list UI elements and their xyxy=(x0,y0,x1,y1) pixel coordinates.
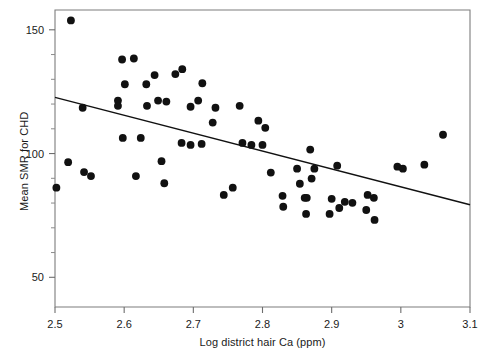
x-axis-label: Log district hair Ca (ppm) xyxy=(55,336,470,348)
data-point xyxy=(209,119,217,127)
data-point xyxy=(121,80,129,88)
data-point xyxy=(158,157,166,165)
x-tick-label: 2.8 xyxy=(255,318,270,330)
y-tick-label: 50 xyxy=(32,271,44,283)
data-point xyxy=(302,210,310,218)
data-point xyxy=(114,102,122,110)
y-axis-label: Mean SMR for CHD xyxy=(18,111,30,210)
data-point xyxy=(303,194,311,202)
data-point xyxy=(370,194,378,202)
regression-line xyxy=(55,97,470,204)
data-point xyxy=(296,180,304,188)
x-tick-label: 3.1 xyxy=(462,318,477,330)
data-point xyxy=(137,134,145,142)
data-point xyxy=(162,98,170,106)
data-point xyxy=(143,102,151,110)
data-point xyxy=(439,131,447,139)
data-point xyxy=(212,104,220,112)
axes-group xyxy=(55,10,470,307)
x-tick-label: 2.7 xyxy=(186,318,201,330)
data-point xyxy=(80,168,88,176)
data-point xyxy=(333,162,341,170)
data-point xyxy=(399,165,407,173)
data-point xyxy=(87,172,95,180)
data-point xyxy=(236,102,244,110)
data-point xyxy=(171,70,179,78)
y-tick-label: 150 xyxy=(26,24,44,36)
data-point xyxy=(151,71,159,79)
data-point xyxy=(52,184,60,192)
data-point xyxy=(132,172,140,180)
data-point xyxy=(279,192,287,200)
data-point xyxy=(118,56,126,64)
scatter-plot-figure: 501001502.52.62.72.82.933.1 Mean SMR for… xyxy=(0,0,489,359)
data-point xyxy=(349,199,357,207)
data-point xyxy=(178,139,186,147)
data-point xyxy=(267,169,275,177)
x-tick-label: 2.6 xyxy=(117,318,132,330)
data-point xyxy=(341,198,349,206)
data-point xyxy=(306,146,314,154)
data-point xyxy=(420,161,428,169)
plot-frame xyxy=(55,10,470,307)
ticks-group xyxy=(49,30,470,313)
data-point xyxy=(160,179,168,187)
data-point xyxy=(259,141,267,149)
data-point xyxy=(194,97,202,105)
data-point xyxy=(328,195,336,203)
data-point xyxy=(371,216,379,224)
data-point xyxy=(293,165,301,173)
data-point xyxy=(198,79,206,87)
data-point xyxy=(220,191,228,199)
data-point xyxy=(261,124,269,132)
data-point xyxy=(198,140,206,148)
data-point xyxy=(119,134,127,142)
regression-line-group xyxy=(55,97,470,204)
data-points-group xyxy=(52,16,446,223)
data-point xyxy=(154,97,162,105)
data-point xyxy=(229,184,237,192)
x-tick-label: 2.9 xyxy=(324,318,339,330)
data-point xyxy=(362,206,370,214)
data-point xyxy=(187,103,195,111)
plot-canvas: 501001502.52.62.72.82.933.1 xyxy=(0,0,489,359)
data-point xyxy=(130,55,138,63)
data-point xyxy=(279,203,287,211)
data-point xyxy=(64,158,72,166)
data-point xyxy=(335,204,343,212)
data-point xyxy=(187,141,195,149)
data-point xyxy=(308,175,316,183)
data-point xyxy=(326,210,334,218)
data-point xyxy=(254,117,262,125)
data-point xyxy=(67,16,75,24)
data-point xyxy=(142,80,150,88)
x-tick-label: 2.5 xyxy=(47,318,62,330)
x-tick-label: 3 xyxy=(398,318,404,330)
data-point xyxy=(178,65,186,73)
